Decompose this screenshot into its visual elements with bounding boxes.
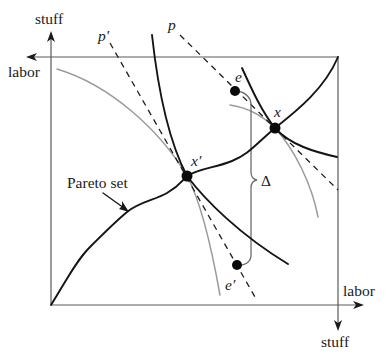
point-x-prime [182, 171, 193, 182]
label-delta: Δ [261, 172, 271, 189]
price-line-p-prime [110, 43, 255, 297]
indifference-curve-x-prime [152, 35, 288, 264]
pareto-arrowhead-icon [119, 201, 129, 212]
label-p-prime: p′ [97, 27, 110, 44]
axis-label-labor-left: labor [8, 63, 41, 80]
price-line-p [180, 35, 338, 190]
point-e [230, 86, 240, 96]
label-x: x [273, 103, 281, 120]
point-x [270, 123, 281, 134]
label-e: e [235, 68, 242, 85]
axis-label-labor-bottom: labor [343, 282, 376, 299]
label-pareto-set: Pareto set [67, 174, 128, 191]
label-x-prime: x′ [190, 152, 202, 169]
pareto-set-arrow [103, 193, 124, 208]
label-e-prime: e′ [225, 276, 236, 293]
axis-label-stuff-bottom: stuff [321, 333, 350, 350]
edgeworth-box-diagram: stuff labor labor stuff p′ p e x x′ e′ Δ… [0, 0, 388, 355]
point-e-prime [232, 260, 242, 270]
label-p: p [167, 16, 176, 33]
axis-label-stuff-top: stuff [35, 10, 64, 27]
delta-bracket [235, 91, 257, 265]
gray-indifference-curve-x [230, 105, 318, 217]
